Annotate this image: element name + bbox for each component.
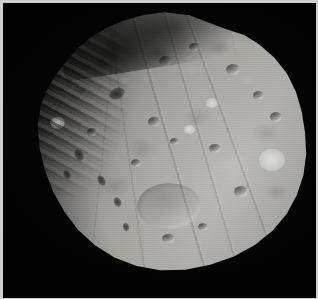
crater-upper-right-2	[253, 91, 264, 100]
crater-left-pit-3	[63, 169, 72, 180]
crater-center-3	[131, 159, 141, 167]
crater-bottom-1	[162, 234, 175, 243]
crater-left-pit-2	[95, 174, 107, 187]
crater-right-lower	[234, 186, 248, 197]
crater-bright-upper	[206, 98, 218, 108]
crater-right-upper	[270, 112, 282, 122]
crater-elongated-dark	[107, 85, 126, 102]
crater-bottom-pit	[122, 222, 130, 232]
crater-upper-mid-1	[159, 56, 172, 66]
crater-center-2	[170, 138, 179, 145]
crater-bottom-2	[198, 223, 208, 231]
image-frame: Phobos	[0, 0, 318, 299]
crater-center-1	[148, 117, 160, 127]
crater-bright-limb	[50, 117, 65, 129]
crater-right-limb	[259, 149, 285, 171]
crater-central-basin	[137, 183, 201, 229]
image-plate	[3, 3, 316, 298]
crater-upper-right-1	[226, 64, 240, 75]
crater-left-pit-4	[113, 196, 123, 208]
crater-center-bright	[184, 125, 195, 134]
crater-center-4	[209, 144, 221, 153]
crater-left-pit-1	[73, 148, 86, 162]
crater-left-mid	[87, 128, 97, 136]
crater-upper-mid-2	[189, 43, 199, 51]
